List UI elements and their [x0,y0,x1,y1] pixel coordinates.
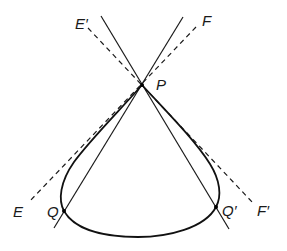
point-p [140,83,144,87]
loop-curve [61,85,220,237]
curve-tangent-diagram: E′ F P E Q Q′ F′ [0,0,287,251]
point-q [62,209,66,213]
label-q: Q [47,203,59,220]
label-e: E [13,203,24,220]
label-f: F [202,12,212,29]
label-p: P [156,76,166,93]
solid-line-2 [54,17,183,228]
label-e-prime: E′ [75,15,89,32]
label-q-prime: Q′ [222,202,238,219]
solid-line-1 [101,16,229,229]
tangent-line-e-f [29,27,196,202]
label-f-prime: F′ [257,202,270,219]
point-q-prime [214,205,218,209]
